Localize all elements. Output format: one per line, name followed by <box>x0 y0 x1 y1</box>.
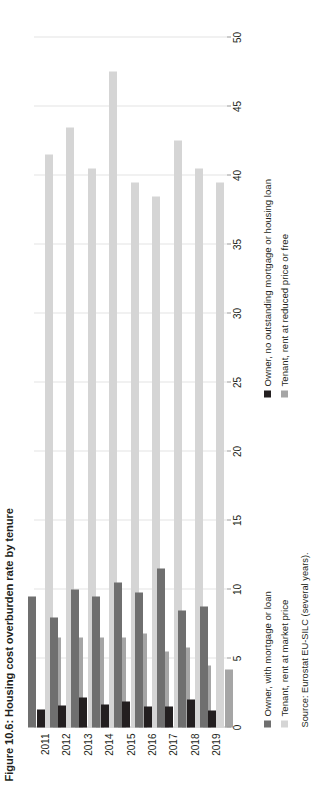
axis-tick-label-30: 30 <box>232 307 243 318</box>
axis-tick-20 <box>227 450 231 451</box>
bar-2016-series-1 <box>144 706 152 727</box>
bar-2015-series-1 <box>122 701 130 727</box>
legend-label-tenant_market: Tenant, rent at market price <box>279 599 290 716</box>
bar-2013-series-0 <box>71 589 79 727</box>
axis-tick-label-25: 25 <box>232 376 243 387</box>
bar-2012-series-1 <box>58 705 66 727</box>
bar-2017-series-0 <box>157 568 165 727</box>
category-label-2018: 2018 <box>189 733 200 755</box>
bar-2018-series-0 <box>178 610 186 727</box>
bar-2019-series-0 <box>200 606 208 727</box>
figure: Figure 10.6: Housing cost overburden rat… <box>0 0 322 785</box>
legend-label-tenant_reduced: Tenant, rent at reduced price or free <box>279 233 290 386</box>
legend-label-own_mortgage: Owner, with mortgage or loan <box>262 591 273 716</box>
plot-area <box>34 37 227 727</box>
axis-tick-25 <box>227 381 231 382</box>
axis-tick-label-40: 40 <box>232 169 243 180</box>
category-label-2017: 2017 <box>168 733 179 755</box>
axis-tick-label-10: 10 <box>232 583 243 594</box>
legend-item-own_mortgage[interactable]: Owner, with mortgage or loan <box>262 591 273 727</box>
axis-tick-label-0: 0 <box>232 724 243 730</box>
bar-2013-series-1 <box>79 697 87 727</box>
figure-title: Figure 10.6: Housing cost overburden rat… <box>3 508 15 781</box>
bar-2014-series-0 <box>92 596 100 727</box>
bar-2017-series-1 <box>165 706 173 727</box>
legend-swatch-icon-tenant_market <box>281 720 288 727</box>
axis-tick-15 <box>227 519 231 520</box>
figure-page: Figure 10.6: Housing cost overburden rat… <box>0 0 322 785</box>
axis-tick-label-50: 50 <box>232 31 243 42</box>
legend-swatch-icon-tenant_reduced <box>281 390 288 397</box>
category-axis-labels: 201120122013201420152016201720182019 <box>34 733 227 785</box>
legend-item-tenant_market[interactable]: Tenant, rent at market price <box>279 599 290 727</box>
bar-2011-series-1 <box>37 709 45 727</box>
legend-swatch-icon-own_mortgage <box>264 720 271 727</box>
legend: Owner, with mortgage or loanOwner, no ou… <box>262 27 302 727</box>
category-label-2016: 2016 <box>146 733 157 755</box>
bar-2016-series-0 <box>135 592 143 727</box>
legend-swatch-icon-own_free <box>264 390 271 397</box>
bar-2018-series-1 <box>187 699 195 727</box>
category-label-2012: 2012 <box>61 733 72 755</box>
bar-2012-series-0 <box>50 617 58 727</box>
value-axis: 05101520253035404550 <box>227 37 257 727</box>
legend-item-own_free[interactable]: Owner, no outstanding mortgage or housin… <box>262 179 273 397</box>
axis-tick-label-5: 5 <box>232 655 243 661</box>
axis-tick-5 <box>227 657 231 658</box>
category-label-2014: 2014 <box>104 733 115 755</box>
axis-tick-0 <box>227 726 231 727</box>
rotated-figure-canvas: Figure 10.6: Housing cost overburden rat… <box>0 0 322 785</box>
category-label-2019: 2019 <box>211 733 222 755</box>
legend-item-tenant_reduced[interactable]: Tenant, rent at reduced price or free <box>279 233 290 397</box>
axis-tick-label-15: 15 <box>232 514 243 525</box>
legend-label-own_free: Owner, no outstanding mortgage or housin… <box>262 179 273 386</box>
category-label-2011: 2011 <box>39 733 50 755</box>
source-note: Source: Eurostat EU-SILC (several years)… <box>300 552 310 727</box>
category-label-2013: 2013 <box>82 733 93 755</box>
axis-tick-30 <box>227 312 231 313</box>
bar-2015-series-0 <box>114 582 122 727</box>
axis-tick-10 <box>227 588 231 589</box>
axis-tick-label-20: 20 <box>232 445 243 456</box>
axis-tick-45 <box>227 105 231 106</box>
axis-tick-40 <box>227 174 231 175</box>
bar-2011-series-0 <box>28 596 36 727</box>
bar-2019-series-1 <box>208 710 216 727</box>
axis-tick-35 <box>227 243 231 244</box>
bar-2014-series-1 <box>101 704 109 727</box>
axis-tick-50 <box>227 36 231 37</box>
axis-tick-label-45: 45 <box>232 100 243 111</box>
axis-tick-label-35: 35 <box>232 238 243 249</box>
bar-2019-series-2 <box>216 182 224 727</box>
category-label-2015: 2015 <box>125 733 136 755</box>
